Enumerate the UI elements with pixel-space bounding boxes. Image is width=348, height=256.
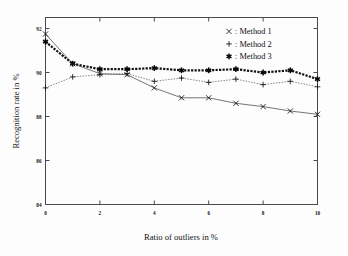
x-axis-tick-labels: 0246810 — [44, 210, 320, 216]
chart-figure: 0246810 8486889092 : Method 1: Method 2:… — [0, 0, 348, 256]
x-tick-label-4: 4 — [153, 210, 156, 216]
series-method-2 — [43, 71, 321, 91]
y-axis-ticks — [46, 29, 318, 205]
legend-entry-1: : Method 1 — [226, 27, 271, 36]
x-axis-title: Ratio of outliers in % — [144, 232, 218, 242]
legend-label-2: : Method 2 — [235, 40, 272, 49]
series-method-1 — [43, 31, 320, 117]
y-tick-label-84: 84 — [36, 202, 42, 208]
data-series-layer — [43, 31, 321, 117]
legend-entry-3: : Method 3 — [226, 52, 271, 61]
x-tick-label-8: 8 — [262, 210, 265, 216]
recognition-rate-line-chart: 0246810 8486889092 : Method 1: Method 2:… — [0, 0, 348, 256]
series-line — [46, 34, 318, 114]
x-tick-label-6: 6 — [207, 210, 210, 216]
x-tick-label-2: 2 — [99, 210, 102, 216]
y-axis-tick-labels: 8486889092 — [36, 26, 42, 208]
legend-entry-2: : Method 2 — [226, 40, 272, 49]
y-tick-label-88: 88 — [36, 114, 42, 120]
legend-label-1: : Method 1 — [235, 27, 272, 36]
chart-legend: : Method 1: Method 2: Method 3 — [217, 22, 314, 66]
y-axis-title: Recognition rate in % — [11, 73, 21, 148]
y-tick-label-90: 90 — [36, 70, 42, 76]
y-tick-label-92: 92 — [36, 26, 42, 32]
plot-frame — [46, 18, 318, 205]
series-line — [46, 42, 318, 79]
y-tick-label-86: 86 — [36, 158, 42, 164]
x-tick-label-10: 10 — [315, 210, 321, 216]
x-axis-ticks — [46, 18, 318, 205]
legend-label-3: : Method 3 — [235, 52, 272, 61]
x-tick-label-0: 0 — [44, 210, 47, 216]
